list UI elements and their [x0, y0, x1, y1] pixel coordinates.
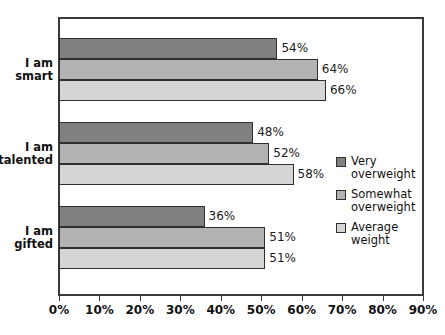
chart-legend: VeryoverweightSomewhatoverweightAveragew…	[336, 155, 422, 254]
legend-label-line: weight	[351, 234, 398, 247]
x-tick-mark	[59, 296, 60, 301]
x-tick-mark	[140, 296, 141, 301]
bar	[59, 38, 277, 59]
x-tick-mark	[423, 296, 424, 301]
bar-value-label: 51%	[265, 227, 296, 248]
legend-label-line: overweight	[351, 201, 415, 214]
x-tick-label: 20%	[118, 303, 162, 317]
category-label-line: talented	[0, 154, 53, 167]
x-tick-mark	[180, 296, 181, 301]
legend-label: Somewhatoverweight	[351, 188, 415, 214]
bar-value-label: 64%	[318, 59, 349, 80]
bar-chart: I amsmartI amtalentedI amgifted 54%64%66…	[0, 0, 445, 335]
x-tick-label: 60%	[280, 303, 324, 317]
category-label: I amtalented	[0, 141, 53, 167]
legend-label: Averageweight	[351, 221, 398, 247]
legend-item: Somewhatoverweight	[336, 188, 422, 214]
legend-swatch-icon	[336, 223, 346, 233]
bar-value-label: 48%	[253, 122, 284, 143]
bar-value-label: 36%	[205, 206, 236, 227]
bar-value-label: 66%	[326, 80, 357, 101]
x-tick-mark	[302, 296, 303, 301]
legend-label: Veryoverweight	[351, 155, 415, 181]
x-tick-label: 80%	[361, 303, 405, 317]
x-tick-mark	[342, 296, 343, 301]
bar	[59, 59, 318, 80]
x-tick-mark	[261, 296, 262, 301]
bar-value-label: 51%	[265, 248, 296, 269]
category-label: I amgifted	[0, 225, 53, 251]
legend-label-line: overweight	[351, 168, 415, 181]
bar-value-label: 54%	[277, 38, 308, 59]
x-tick-label: 30%	[158, 303, 202, 317]
bar-value-label: 58%	[294, 164, 325, 185]
category-label-line: I am	[0, 57, 53, 70]
x-tick-label: 0%	[37, 303, 81, 317]
bar-value-label: 52%	[269, 143, 300, 164]
x-tick-mark	[99, 296, 100, 301]
x-tick-label: 50%	[239, 303, 283, 317]
legend-item: Averageweight	[336, 221, 422, 247]
category-label-line: I am	[0, 141, 53, 154]
x-tick-label: 90%	[401, 303, 445, 317]
legend-swatch-icon	[336, 190, 346, 200]
bar	[59, 164, 294, 185]
x-tick-label: 10%	[77, 303, 121, 317]
x-tick-label: 70%	[320, 303, 364, 317]
legend-swatch-icon	[336, 157, 346, 167]
category-label-line: smart	[0, 70, 53, 83]
bar	[59, 248, 265, 269]
category-label-line: gifted	[0, 238, 53, 251]
x-tick-mark	[221, 296, 222, 301]
bar	[59, 143, 269, 164]
bar	[59, 227, 265, 248]
x-tick-label: 40%	[199, 303, 243, 317]
bar	[59, 122, 253, 143]
category-label: I amsmart	[0, 57, 53, 83]
x-tick-mark	[383, 296, 384, 301]
legend-item: Veryoverweight	[336, 155, 422, 181]
bar	[59, 206, 205, 227]
category-label-line: I am	[0, 225, 53, 238]
bar	[59, 80, 326, 101]
